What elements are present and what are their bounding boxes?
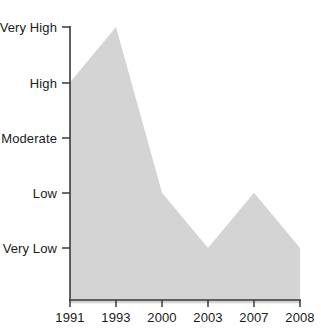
y-axis-label-high: High xyxy=(30,76,57,91)
x-axis-label-1993: 1993 xyxy=(90,310,142,325)
x-axis-label-2003: 2003 xyxy=(182,310,234,325)
chart-canvas xyxy=(0,0,321,334)
x-axis-label-1991: 1991 xyxy=(44,310,96,325)
y-axis-label-very-high: Very High xyxy=(0,20,57,35)
x-axis-label-2007: 2007 xyxy=(228,310,280,325)
area-chart: Very High High Moderate Low Very Low 199… xyxy=(0,0,321,334)
x-axis-label-2008: 2008 xyxy=(274,310,321,325)
y-axis-label-low: Low xyxy=(33,186,57,201)
x-axis-label-2000: 2000 xyxy=(136,310,188,325)
area-series-fill xyxy=(70,27,300,303)
y-axis-label-moderate: Moderate xyxy=(1,131,57,146)
y-axis-label-very-low: Very Low xyxy=(3,241,57,256)
y-axis-ticks xyxy=(62,27,70,248)
